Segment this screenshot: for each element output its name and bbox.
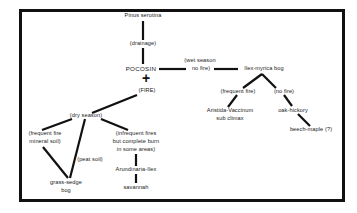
node-drainage: (drainage) [130,40,157,48]
node-infrequent-line1: (infrequent fires [116,130,157,138]
node-wet-season-line1: (wet season [184,57,215,65]
node-frequent-fire-mineral-line2: mineral soil) [29,138,60,146]
node-infrequent-line3: in some areas) [117,146,155,154]
node-pinus-serotina: Pinus serotina [125,12,162,20]
node-ilex-myrica-bog: Ilex-myrica bog [244,65,283,73]
node-dry-season: (dry season) [70,112,102,120]
node-savannah: savannah [123,184,148,192]
node-grass-sedge-line1: grass-sedge [50,179,82,187]
node-aristida-line1: Aristida-Vaccinum [207,107,253,115]
node-grass-sedge-line2: bog [61,187,71,195]
node-frequent-fire-right: (frequent fire) [220,88,255,96]
node-fire: (FIRE) [138,87,155,95]
node-oak-hickory: oak-hickory [278,107,308,115]
node-arundinaria-ilex: Arundinaria-Ilex [116,166,157,174]
node-aristida-line2: sub climax [216,115,243,123]
node-wet-season-line2: no fire) [192,65,210,73]
node-peat-soil: (peat soil) [77,156,103,164]
node-frequent-fire-mineral-line1: (frequent fire [28,130,61,138]
node-infrequent-line2: but complete burn [113,138,159,146]
plus-icon: + [142,71,150,85]
node-beech-maple: beech-maple (?) [290,126,332,134]
node-no-fire: (no fire) [274,88,294,96]
